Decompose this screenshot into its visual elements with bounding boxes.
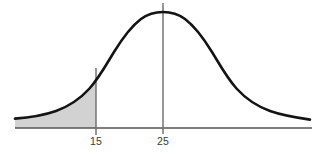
x-tick-label-15: 15 — [90, 136, 102, 147]
shaded-left-tail-region — [15, 80, 96, 129]
x-tick-label-25: 25 — [157, 136, 169, 147]
normal-distribution-figure: 15 25 — [0, 0, 326, 160]
